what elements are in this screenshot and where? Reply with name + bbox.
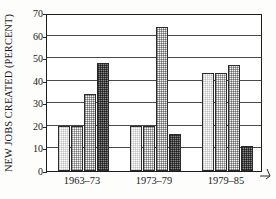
y-tick-label-10: 10 [18,144,43,154]
bar-group-3 [191,15,263,171]
bar-1979-85-series-3 [228,65,240,171]
bar-1963-73-series-3 [84,94,96,171]
y-tick-label-50: 50 [18,54,43,64]
bar-1979-85-series-1 [202,73,214,171]
y-tick-label-30: 30 [18,99,43,109]
y-axis-tick-labels: 70 60 50 40 30 20 10 0 [18,8,43,180]
y-axis-title: NEW JOBS CREATED (PERCENT) [3,14,14,172]
bar-1979-85-series-4 [241,146,253,171]
bar-1973-79-series-1 [130,126,142,171]
y-tick-label-60: 60 [18,32,43,42]
plot-area [46,14,262,172]
bar-1963-73-series-2 [71,126,83,171]
bar-group-1 [47,15,119,171]
bar-1963-73-series-1 [58,126,70,171]
bar-group-2 [119,15,191,171]
bar-1973-79-series-4 [169,134,181,171]
y-tick-label-0: 0 [18,167,43,177]
y-tick-label-40: 40 [18,77,43,87]
x-axis-tick-labels: 1963–731973–791979–85 [46,175,262,193]
bar-1963-73-series-4 [97,63,109,171]
x-tick-label-2: 1973–79 [118,175,190,186]
bar-1973-79-series-2 [143,126,155,171]
bars-layer [47,15,261,171]
y-tick-mark-0 [43,172,47,173]
y-axis-title-container: NEW JOBS CREATED (PERCENT) [0,0,20,178]
axis-arrow-icon [259,165,272,181]
x-tick-label-1: 1963–73 [46,175,118,186]
y-tick-label-70: 70 [18,9,43,19]
bar-1979-85-series-2 [215,73,227,171]
bar-1973-79-series-3 [156,27,168,171]
x-tick-label-3: 1979–85 [190,175,262,186]
y-tick-label-20: 20 [18,122,43,132]
bar-chart: NEW JOBS CREATED (PERCENT) 70 60 50 40 3… [0,0,276,199]
